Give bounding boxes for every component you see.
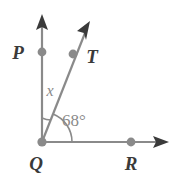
angle-arc-x [42,118,51,120]
point-Q-vertex [37,137,46,146]
angle-label-68: 68° [62,111,86,130]
label-R: R [124,153,138,174]
label-Q: Q [29,153,43,174]
label-P: P [11,42,24,63]
geometry-diagram: P T Q R x 68° [0,0,173,181]
point-R [127,138,136,147]
geometry-canvas: P T Q R x 68° [0,0,173,181]
label-T: T [86,46,99,67]
angle-label-x: x [45,82,53,99]
point-T [69,50,78,59]
point-P [38,48,47,57]
